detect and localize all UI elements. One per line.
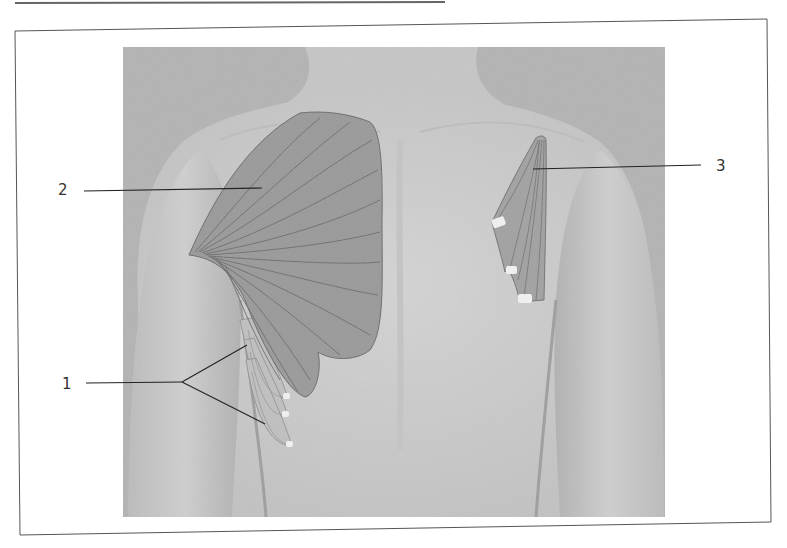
torso-photo [123,47,665,517]
tendon-tip [283,393,290,399]
tendon-tip [506,266,517,274]
label-1: 1 [62,375,72,393]
anatomy-figure: 1 2 3 [0,0,787,548]
top-rule [15,2,445,3]
tendon-tip [282,411,289,417]
tendon-tip [286,441,293,447]
tendon-tip [518,294,532,303]
label-2: 2 [58,181,68,199]
label-3: 3 [716,157,726,175]
